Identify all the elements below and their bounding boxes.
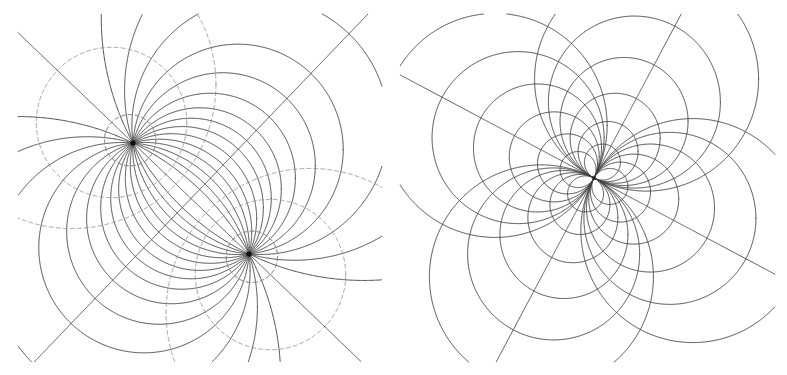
circle-pencils-figure: Coaxial Circle Pencils <box>0 0 787 375</box>
tangent-node <box>592 176 596 180</box>
tangency-point-marker <box>592 176 596 180</box>
point-A <box>130 140 135 145</box>
point-B <box>246 251 251 256</box>
figure-background <box>0 0 787 375</box>
